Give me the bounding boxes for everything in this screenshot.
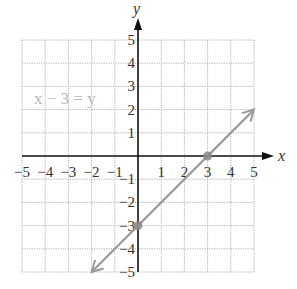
y-tick-label: 1: [128, 125, 136, 141]
x-tick-label: −5: [14, 164, 30, 180]
equation-label: x − 3 = y: [34, 89, 96, 108]
x-tick-label: 1: [157, 164, 165, 180]
y-tick-label: 2: [128, 102, 136, 118]
line-x-minus-3-equals-y: [92, 110, 254, 272]
intercept-point: [203, 152, 212, 161]
y-tick-label: 3: [128, 78, 136, 94]
y-tick-label: 5: [128, 32, 136, 48]
intercept-point: [134, 221, 143, 230]
coordinate-plane: xy −5−4−3−2−11234554321−1−2−3−4−5 x − 3 …: [0, 0, 297, 289]
x-tick-label: −2: [84, 164, 100, 180]
line-series: [92, 110, 254, 272]
y-axis-label: y: [131, 0, 141, 18]
y-tick-label: 4: [128, 55, 136, 71]
x-tick-label: −3: [60, 164, 76, 180]
y-tick-label: −2: [119, 194, 135, 210]
y-tick-label: −5: [119, 264, 135, 280]
x-tick-label: 5: [250, 164, 258, 180]
axes: xy: [22, 0, 285, 272]
y-tick-label: −1: [119, 171, 135, 187]
x-tick-label: −4: [37, 164, 53, 180]
x-tick-label: 3: [204, 164, 212, 180]
x-tick-label: 4: [227, 164, 235, 180]
x-axis-label: x: [277, 147, 285, 164]
